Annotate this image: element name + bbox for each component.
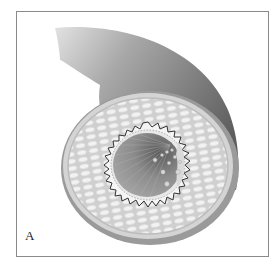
artery-illustration — [0, 0, 272, 271]
lumen — [113, 133, 181, 197]
panel-label: A — [25, 228, 34, 244]
